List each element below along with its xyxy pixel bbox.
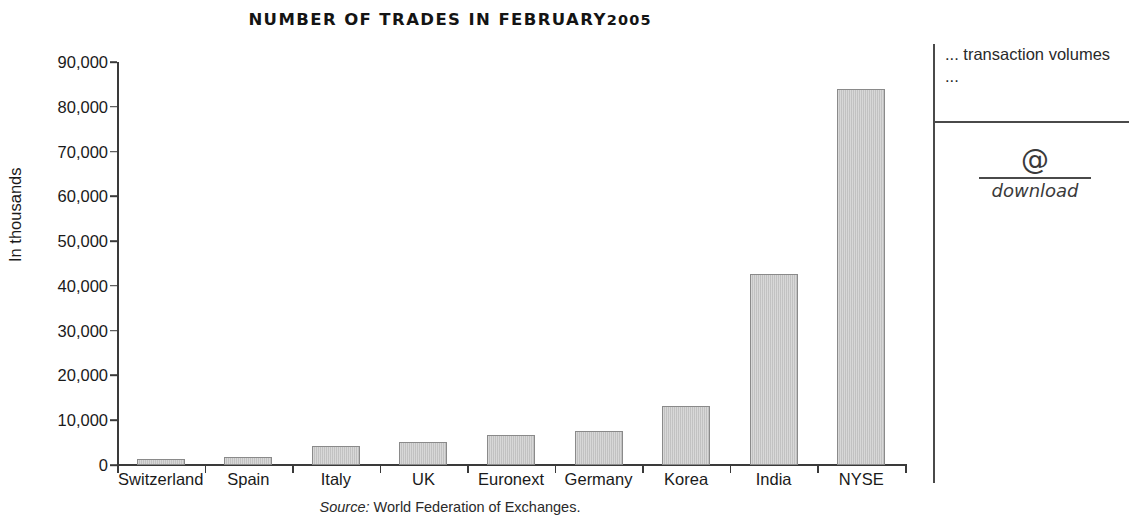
plot-area: 90,00080,00070,00060,00050,00040,00030,0…: [117, 62, 905, 465]
x-axis-tick-mark: [467, 465, 469, 473]
sidebar-caption: ... transaction volumes ...: [945, 44, 1125, 88]
source-note: Source: World Federation of Exchanges.: [0, 499, 900, 515]
bar[interactable]: [750, 274, 798, 465]
bar-slot: [730, 62, 818, 465]
sidebar-vertical-divider: [933, 44, 935, 483]
bar[interactable]: [837, 89, 885, 465]
bar-slot: [380, 62, 468, 465]
chart-title-main: NUMBER OF TRADES IN FEBRUARY: [248, 10, 606, 29]
bar[interactable]: [662, 406, 710, 465]
bar[interactable]: [399, 442, 447, 465]
x-axis-tick-mark: [905, 465, 907, 473]
x-axis-category-label: Germany: [565, 470, 633, 489]
chart-page: NUMBER OF TRADES IN FEBRUARY2005 In thou…: [0, 0, 1129, 524]
y-axis-tick-label: 70,000: [58, 142, 117, 161]
at-symbol-icon: @: [965, 146, 1105, 174]
x-axis-category-label: Euronext: [478, 470, 544, 489]
x-axis-category-label: Italy: [321, 470, 351, 489]
download-link[interactable]: @ download: [965, 146, 1105, 201]
bar[interactable]: [487, 435, 535, 465]
y-axis-tick-label: 0: [99, 456, 117, 475]
source-label: Source:: [320, 499, 370, 515]
bar-slot: [205, 62, 293, 465]
chart-region: NUMBER OF TRADES IN FEBRUARY2005 In thou…: [0, 0, 900, 524]
bar-slot: [292, 62, 380, 465]
bar[interactable]: [137, 459, 185, 465]
x-axis-tick-mark: [292, 465, 294, 473]
x-axis-category-label: NYSE: [839, 470, 884, 489]
download-underline: [979, 177, 1091, 179]
x-axis-category-label: Korea: [664, 470, 708, 489]
bar-slot: [467, 62, 555, 465]
y-axis-tick-label: 30,000: [58, 321, 117, 340]
x-axis-category-label: Switzerland: [118, 470, 203, 489]
x-axis-tick-mark: [205, 465, 207, 473]
y-axis-tick-label: 60,000: [58, 187, 117, 206]
y-axis-tick-label: 50,000: [58, 232, 117, 251]
y-axis-tick-label: 10,000: [58, 411, 117, 430]
y-axis-tick-label: 20,000: [58, 366, 117, 385]
x-axis-tick-mark: [380, 465, 382, 473]
bar-slot: [817, 62, 905, 465]
bar[interactable]: [575, 431, 623, 465]
x-axis-tick-mark: [730, 465, 732, 473]
x-axis-tick-mark: [817, 465, 819, 473]
sidebar: ... transaction volumes ... @ download: [933, 0, 1129, 524]
bar-slot: [555, 62, 643, 465]
source-text: World Federation of Exchanges.: [370, 499, 581, 515]
x-axis-category-label: Spain: [227, 470, 269, 489]
sidebar-horizontal-divider: [933, 121, 1129, 123]
bar[interactable]: [224, 457, 272, 465]
x-axis-tick-mark: [555, 465, 557, 473]
download-label: download: [965, 180, 1105, 201]
y-axis-tick-label: 80,000: [58, 97, 117, 116]
x-axis-tick-mark: [642, 465, 644, 473]
y-axis-title: In thousands: [6, 168, 25, 263]
chart-title: NUMBER OF TRADES IN FEBRUARY2005: [0, 10, 900, 29]
y-axis-tick-label: 90,000: [58, 53, 117, 72]
chart-title-year: 2005: [607, 12, 652, 28]
x-axis-category-label: India: [756, 470, 792, 489]
bar[interactable]: [312, 446, 360, 465]
x-axis-category-label: UK: [412, 470, 435, 489]
bar-slot: [117, 62, 205, 465]
bar-slot: [642, 62, 730, 465]
y-axis-tick-label: 40,000: [58, 276, 117, 295]
